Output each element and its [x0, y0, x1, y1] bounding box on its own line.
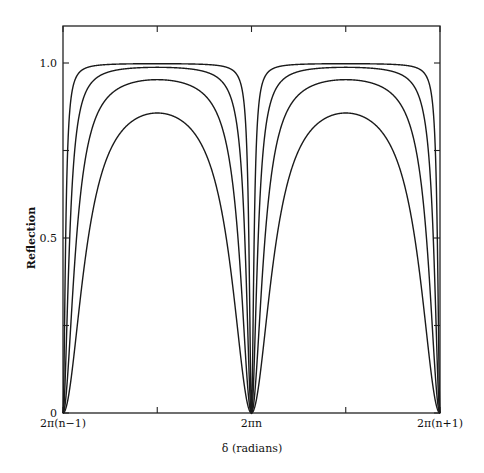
- y-tick-label: 1.0: [40, 57, 58, 70]
- y-tick-labels: 00.51.0: [40, 57, 58, 420]
- axis-ticks: [63, 26, 440, 413]
- x-tick-labels: 2π(n−1)2πn2π(n+1): [40, 417, 463, 430]
- y-tick-label: 0.5: [40, 232, 58, 245]
- plot-frame: [63, 26, 440, 413]
- y-tick-label: 0: [50, 407, 57, 420]
- reflection-curve-1: [63, 64, 440, 413]
- reflection-curve-3: [63, 80, 440, 413]
- x-tick-label: 2πn: [241, 417, 262, 430]
- x-tick-label: 2π(n+1): [417, 417, 463, 430]
- reflection-curve-4: [63, 113, 440, 413]
- y-axis-title: Reflection: [25, 207, 38, 269]
- reflection-curves: [63, 64, 440, 413]
- reflection-chart: 2π(n−1)2πn2π(n+1) 00.51.0 δ (radians) Re…: [0, 0, 484, 473]
- x-tick-label: 2π(n−1): [40, 417, 86, 430]
- plot-border: [63, 26, 440, 413]
- x-axis-title: δ (radians): [222, 442, 282, 455]
- reflection-curve-2: [63, 67, 440, 413]
